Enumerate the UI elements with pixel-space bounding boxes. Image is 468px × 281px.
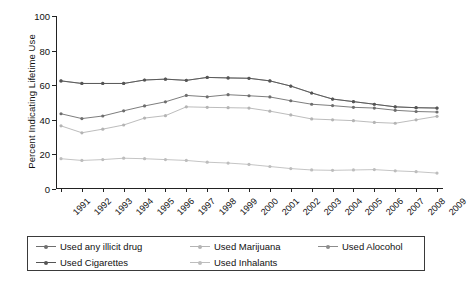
data-point: [268, 79, 271, 82]
data-point: [310, 103, 313, 106]
data-point: [415, 110, 418, 113]
data-point: [352, 168, 355, 171]
x-tick-label: 1997: [196, 196, 217, 217]
data-point: [289, 113, 292, 116]
data-point: [59, 79, 62, 82]
x-tick-label: 1992: [92, 196, 113, 217]
legend-item[interactable]: Used Cigarettes: [36, 254, 128, 271]
data-point: [101, 114, 104, 117]
data-point: [206, 76, 209, 79]
data-point: [247, 94, 250, 97]
data-point: [122, 157, 125, 160]
data-point: [310, 91, 313, 94]
x-tick-label: 2009: [447, 196, 468, 217]
x-tick-label: 2001: [280, 196, 301, 217]
data-point: [227, 76, 230, 79]
series-line: [61, 77, 437, 108]
legend-item[interactable]: Used any illicit drug: [36, 238, 142, 255]
data-point: [143, 116, 146, 119]
x-tick-label: 2005: [363, 196, 384, 217]
data-point: [373, 121, 376, 124]
y-tick-label: 20: [39, 149, 50, 160]
data-point: [59, 157, 62, 160]
data-point: [435, 106, 438, 109]
legend-item[interactable]: Used Marijuana: [190, 238, 281, 255]
x-tick-label: 2002: [301, 196, 322, 217]
series-line: [61, 107, 437, 133]
x-tick-label: 2007: [405, 196, 426, 217]
data-point: [247, 163, 250, 166]
data-point: [373, 106, 376, 109]
legend-label: Used Cigarettes: [60, 257, 128, 268]
data-point: [185, 94, 188, 97]
data-point: [331, 97, 334, 100]
data-point: [268, 95, 271, 98]
x-tick-label: 2008: [426, 196, 447, 217]
data-point: [373, 168, 376, 171]
data-point: [122, 123, 125, 126]
legend-marker-icon: [36, 242, 56, 251]
x-tick-label: 2004: [342, 196, 363, 217]
data-point: [394, 109, 397, 112]
data-point: [247, 77, 250, 80]
data-point: [164, 78, 167, 81]
y-tick-label: 100: [34, 11, 50, 22]
data-point: [59, 124, 62, 127]
data-point: [101, 158, 104, 161]
data-point: [415, 106, 418, 109]
x-tick-label: 1996: [175, 196, 196, 217]
x-tick-label: 1991: [71, 196, 92, 217]
data-point: [80, 159, 83, 162]
data-point: [185, 79, 188, 82]
chart-legend: Used any illicit drugUsed MarijuanaUsed …: [27, 236, 425, 271]
plot-area: 020406080100 199119921993199419951996199…: [56, 16, 442, 188]
data-point: [331, 118, 334, 121]
data-point: [435, 115, 438, 118]
series-used-cigarettes: [59, 76, 438, 110]
legend-label: Used any illicit drug: [60, 241, 142, 252]
x-tick-label: 2000: [259, 196, 280, 217]
y-axis-title: Percent Indicating Lifetime Use: [26, 7, 37, 197]
data-point: [101, 128, 104, 131]
series-used-marijuana: [59, 105, 438, 134]
y-tick-label: 80: [39, 45, 50, 56]
data-point: [206, 106, 209, 109]
data-point: [122, 109, 125, 112]
data-point: [310, 117, 313, 120]
x-tick-label: 1998: [217, 196, 238, 217]
series-used-inhalants: [59, 157, 438, 175]
data-point: [247, 106, 250, 109]
data-point: [394, 122, 397, 125]
series-line: [61, 77, 437, 108]
data-point: [227, 93, 230, 96]
data-point: [185, 105, 188, 108]
x-tick-label: 1999: [238, 196, 259, 217]
data-point: [185, 159, 188, 162]
y-tick-mark: [52, 189, 56, 190]
legend-item[interactable]: Used Alocohol: [318, 238, 403, 255]
y-tick-label: 0: [45, 184, 50, 195]
x-tick-label: 2003: [322, 196, 343, 217]
data-point: [289, 84, 292, 87]
legend-item[interactable]: Used Inhalants: [190, 254, 277, 271]
data-point: [227, 161, 230, 164]
data-point: [101, 82, 104, 85]
data-point: [331, 169, 334, 172]
data-point: [394, 169, 397, 172]
x-tick-label: 2006: [384, 196, 405, 217]
data-point: [122, 82, 125, 85]
x-tick-label: 1994: [134, 196, 155, 217]
data-point: [143, 78, 146, 81]
legend-label: Used Marijuana: [214, 241, 281, 252]
data-point: [268, 110, 271, 113]
data-point: [80, 131, 83, 134]
data-point: [394, 105, 397, 108]
data-point: [331, 104, 334, 107]
data-point: [164, 114, 167, 117]
data-point: [143, 104, 146, 107]
legend-marker-icon: [318, 242, 338, 251]
data-point: [206, 161, 209, 164]
legend-label: Used Inhalants: [214, 257, 277, 268]
data-point: [206, 95, 209, 98]
legend-row-top: Used any illicit drugUsed MarijuanaUsed …: [28, 238, 424, 255]
